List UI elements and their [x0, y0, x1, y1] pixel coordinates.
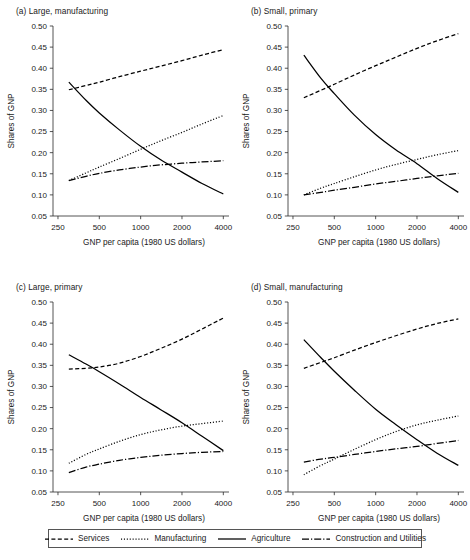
- x-tick-label: 1000: [132, 499, 150, 508]
- chart-panel-a: (a) Large, manufacturing 0.050.100.150.2…: [0, 2, 235, 268]
- chart-panel-d: (d) Small, manufacturing 0.050.100.150.2…: [235, 278, 470, 544]
- series-line-construction-and-utilities: [69, 451, 223, 472]
- x-tick-label: 250: [51, 223, 65, 232]
- y-tick-label: 0.05: [31, 488, 47, 497]
- y-tick-label: 0.20: [266, 149, 282, 158]
- legend-label: Construction and Utilities: [335, 534, 426, 543]
- legend-swatch-dash-dot: [301, 535, 331, 543]
- y-tick-label: 0.25: [266, 403, 282, 412]
- chart-panel-c: (c) Large, primary 0.050.100.150.200.250…: [0, 278, 235, 544]
- y-axis-title: Shares of GNP: [242, 93, 251, 149]
- y-tick-label: 0.05: [266, 488, 282, 497]
- y-tick-label: 0.10: [266, 191, 282, 200]
- y-tick-label: 0.30: [31, 382, 47, 391]
- y-tick-label: 0.25: [31, 127, 47, 136]
- y-tick-label: 0.35: [31, 85, 47, 94]
- series-line-agriculture: [69, 355, 223, 451]
- y-tick-label: 0.35: [31, 361, 47, 370]
- y-tick-label: 0.05: [31, 212, 47, 221]
- legend-label: Agriculture: [251, 534, 290, 543]
- x-tick-label: 250: [286, 499, 300, 508]
- legend-swatch-dashed: [44, 535, 74, 543]
- series-line-manufacturing: [304, 151, 458, 195]
- x-tick-label: 2000: [173, 499, 191, 508]
- legend-entry: Manufacturing: [120, 534, 206, 543]
- panel-c-plot: 0.050.100.150.200.250.300.350.400.450.50…: [0, 278, 235, 544]
- series-line-agriculture: [304, 55, 458, 192]
- x-tick-label: 500: [328, 499, 342, 508]
- y-tick-label: 0.10: [31, 467, 47, 476]
- y-tick-label: 0.30: [266, 382, 282, 391]
- series-line-agriculture: [304, 340, 458, 466]
- series-line-manufacturing: [69, 116, 223, 181]
- y-tick-label: 0.20: [31, 425, 47, 434]
- legend-entry: Construction and Utilities: [301, 534, 426, 543]
- y-tick-label: 0.15: [31, 170, 47, 179]
- x-tick-label: 1000: [367, 499, 385, 508]
- y-tick-label: 0.15: [266, 170, 282, 179]
- y-tick-label: 0.45: [31, 43, 47, 52]
- x-axis-title: GNP per capita (1980 US dollars): [318, 514, 440, 523]
- panel-b-plot: 0.050.100.150.200.250.300.350.400.450.50…: [235, 2, 470, 268]
- x-axis-title: GNP per capita (1980 US dollars): [83, 514, 205, 523]
- x-tick-label: 4000: [214, 223, 232, 232]
- y-tick-label: 0.40: [266, 340, 282, 349]
- y-tick-label: 0.40: [31, 340, 47, 349]
- y-tick-label: 0.35: [266, 361, 282, 370]
- y-tick-label: 0.05: [266, 212, 282, 221]
- series-line-construction-and-utilities: [69, 161, 223, 181]
- y-tick-label: 0.20: [31, 149, 47, 158]
- y-tick-label: 0.15: [31, 446, 47, 455]
- legend-label: Manufacturing: [154, 534, 206, 543]
- chart-legend: ServicesManufacturingAgricultureConstruc…: [48, 529, 422, 548]
- legend-swatch-dotted: [120, 535, 150, 543]
- y-axis-title: Shares of GNP: [242, 369, 251, 425]
- y-tick-label: 0.25: [31, 403, 47, 412]
- y-tick-label: 0.50: [31, 298, 47, 307]
- y-tick-label: 0.40: [266, 64, 282, 73]
- legend-entry: Agriculture: [217, 534, 290, 543]
- y-tick-label: 0.50: [266, 298, 282, 307]
- y-tick-label: 0.10: [31, 191, 47, 200]
- series-line-manufacturing: [304, 416, 458, 475]
- series-line-agriculture: [69, 82, 223, 194]
- y-tick-label: 0.35: [266, 85, 282, 94]
- x-tick-label: 4000: [449, 499, 467, 508]
- x-tick-label: 500: [328, 223, 342, 232]
- x-axis-title: GNP per capita (1980 US dollars): [318, 238, 440, 247]
- x-tick-label: 1000: [367, 223, 385, 232]
- y-tick-label: 0.30: [31, 106, 47, 115]
- x-tick-label: 500: [93, 223, 107, 232]
- x-tick-label: 250: [286, 223, 300, 232]
- y-tick-label: 0.45: [266, 43, 282, 52]
- series-line-services: [69, 50, 223, 90]
- series-line-services: [304, 319, 458, 368]
- legend-label: Services: [78, 534, 109, 543]
- y-tick-label: 0.45: [266, 319, 282, 328]
- x-tick-label: 2000: [173, 223, 191, 232]
- x-tick-label: 2000: [408, 499, 426, 508]
- legend-swatch-solid: [217, 535, 247, 543]
- x-tick-label: 500: [93, 499, 107, 508]
- y-tick-label: 0.25: [266, 127, 282, 136]
- x-tick-label: 250: [51, 499, 65, 508]
- x-tick-label: 4000: [214, 499, 232, 508]
- legend-entry: Services: [44, 534, 109, 543]
- y-tick-label: 0.15: [266, 446, 282, 455]
- x-axis-title: GNP per capita (1980 US dollars): [83, 238, 205, 247]
- y-axis-title: Shares of GNP: [7, 93, 16, 149]
- panel-a-plot: 0.050.100.150.200.250.300.350.400.450.50…: [0, 2, 235, 268]
- x-tick-label: 4000: [449, 223, 467, 232]
- x-tick-label: 1000: [132, 223, 150, 232]
- y-tick-label: 0.20: [266, 425, 282, 434]
- y-tick-label: 0.45: [31, 319, 47, 328]
- y-tick-label: 0.40: [31, 64, 47, 73]
- x-tick-label: 2000: [408, 223, 426, 232]
- y-tick-label: 0.30: [266, 106, 282, 115]
- panel-d-plot: 0.050.100.150.200.250.300.350.400.450.50…: [235, 278, 470, 544]
- chart-panel-b: (b) Small, primary 0.050.100.150.200.250…: [235, 2, 470, 268]
- series-line-services: [304, 34, 458, 98]
- y-axis-title: Shares of GNP: [7, 369, 16, 425]
- y-tick-label: 0.10: [266, 467, 282, 476]
- series-line-services: [69, 318, 223, 369]
